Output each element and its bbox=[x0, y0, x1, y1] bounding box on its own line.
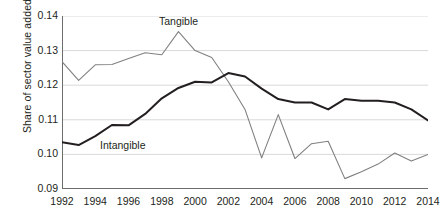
y-axis-tick-label: 0.09 bbox=[28, 182, 58, 194]
y-axis-tick-label: 0.14 bbox=[28, 9, 58, 21]
series-line-tangible bbox=[62, 32, 428, 179]
plot-area bbox=[62, 16, 428, 189]
y-axis-title: Share of sector value added bbox=[21, 0, 33, 151]
y-axis-tick-label: 0.13 bbox=[28, 44, 58, 56]
x-axis-tick-label: 2014 bbox=[408, 195, 440, 207]
y-axis-tick-label: 0.11 bbox=[28, 113, 58, 125]
series-label-tangible: Tangible bbox=[159, 15, 198, 27]
series-label-intangible: Intangible bbox=[100, 139, 146, 151]
chart-svg bbox=[62, 16, 428, 189]
y-axis-tick-label: 0.10 bbox=[28, 147, 58, 159]
y-axis-tick-label: 0.12 bbox=[28, 78, 58, 90]
chart-container: Share of sector value added 0.140.130.12… bbox=[0, 0, 440, 223]
